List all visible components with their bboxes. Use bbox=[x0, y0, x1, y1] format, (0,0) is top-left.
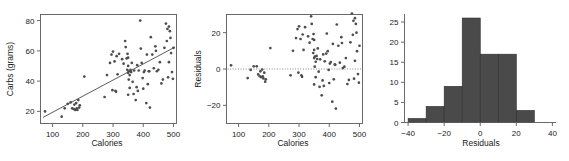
residual-data-point bbox=[332, 43, 335, 46]
scatter-data-point bbox=[139, 47, 142, 50]
residual-data-point bbox=[351, 12, 354, 15]
residual-data-point bbox=[332, 78, 335, 81]
scatter-data-point bbox=[142, 87, 145, 90]
scatter-data-point bbox=[112, 50, 115, 53]
scatter-data-point bbox=[127, 78, 130, 81]
scatter-data-point bbox=[78, 104, 81, 107]
three-panel-figure: 20406080 100200300400500 Calories Carbs … bbox=[0, 0, 569, 161]
residual-data-point bbox=[313, 65, 316, 68]
residual-data-point bbox=[325, 52, 328, 55]
residual-data-point bbox=[312, 52, 315, 55]
scatter-data-point bbox=[136, 90, 139, 93]
scatter-data-point bbox=[127, 93, 130, 96]
scatter-data-point bbox=[118, 53, 121, 56]
residual-data-point bbox=[301, 33, 304, 36]
scatter-data-point bbox=[83, 75, 86, 78]
scatter-data-point bbox=[143, 69, 146, 72]
residual-data-point bbox=[340, 36, 343, 39]
scatter-data-point bbox=[127, 56, 130, 59]
scatter-y-axis-title: Carbs (grams) bbox=[5, 42, 15, 96]
residual-svg: −20020 100200300400500 Calories Residual… bbox=[186, 0, 376, 161]
residual-data-point bbox=[320, 94, 323, 97]
residual-data-point bbox=[355, 23, 358, 26]
residual-data-point bbox=[313, 83, 316, 86]
residual-data-point bbox=[354, 59, 357, 62]
residual-data-point bbox=[322, 85, 325, 88]
histogram-x-axis: −40−2002040 bbox=[401, 123, 557, 138]
histogram-bar bbox=[444, 86, 462, 122]
scatter-data-point bbox=[115, 55, 118, 58]
residual-data-point bbox=[338, 61, 341, 64]
x-tick-label: 500 bbox=[353, 130, 367, 139]
scatter-data-point bbox=[121, 58, 124, 61]
scatter-data-point bbox=[145, 102, 148, 105]
scatter-data-point bbox=[111, 89, 114, 92]
scatter-data-point bbox=[78, 106, 81, 109]
scatter-data-point bbox=[132, 93, 135, 96]
y-tick-label: 80 bbox=[26, 17, 35, 26]
y-tick-label: 25 bbox=[390, 18, 399, 27]
residual-data-point bbox=[317, 70, 320, 73]
residual-data-point bbox=[297, 71, 300, 74]
scatter-plot-area bbox=[41, 15, 177, 124]
scatter-data-point bbox=[169, 37, 172, 40]
scatter-data-point bbox=[146, 83, 149, 86]
histogram-bar bbox=[480, 54, 498, 122]
residual-data-point bbox=[263, 71, 266, 74]
residual-data-point bbox=[292, 49, 295, 52]
residual-data-point bbox=[356, 50, 359, 53]
residual-data-point bbox=[335, 23, 338, 26]
panel-residuals-vs-calories: −20020 100200300400500 Calories Residual… bbox=[186, 0, 376, 161]
x-tick-label: 20 bbox=[512, 129, 521, 138]
scatter-data-point bbox=[128, 87, 131, 90]
residual-data-point bbox=[323, 60, 326, 63]
scatter-data-point bbox=[149, 106, 152, 109]
scatter-data-point bbox=[155, 49, 158, 52]
histogram-bar bbox=[498, 54, 516, 122]
scatter-x-axis-title: Calories bbox=[91, 138, 122, 148]
scatter-data-point bbox=[60, 115, 63, 118]
residual-data-point bbox=[358, 44, 361, 47]
residual-data-point bbox=[351, 34, 354, 37]
residual-y-axis-title: Residuals bbox=[193, 50, 203, 87]
x-tick-label: 500 bbox=[167, 130, 181, 139]
y-tick-label: 60 bbox=[26, 47, 35, 56]
residual-data-point bbox=[331, 100, 334, 103]
scatter-data-point bbox=[131, 81, 134, 84]
scatter-data-point bbox=[76, 109, 79, 112]
x-tick-label: 100 bbox=[232, 130, 246, 139]
residual-data-point bbox=[321, 79, 324, 82]
residual-data-point bbox=[264, 80, 267, 83]
residual-data-point bbox=[314, 76, 317, 79]
x-tick-label: 200 bbox=[262, 130, 276, 139]
y-tick-label: 20 bbox=[390, 38, 399, 47]
residual-data-point bbox=[310, 15, 313, 18]
x-tick-label: 400 bbox=[137, 130, 151, 139]
residual-data-point bbox=[299, 38, 302, 41]
residual-data-point bbox=[329, 61, 332, 64]
x-tick-label: −20 bbox=[437, 129, 451, 138]
x-tick-label: −40 bbox=[401, 129, 415, 138]
residual-data-point bbox=[316, 58, 319, 61]
residual-data-point bbox=[319, 58, 322, 61]
panel-residuals-histogram: 0510152025 −40−2002040 Residuals bbox=[374, 0, 569, 161]
scatter-data-point bbox=[165, 22, 168, 25]
residual-data-point bbox=[316, 47, 319, 50]
residual-data-point bbox=[310, 23, 313, 26]
histogram-bar bbox=[516, 110, 534, 122]
scatter-data-point bbox=[110, 53, 113, 56]
residual-data-point bbox=[334, 63, 337, 66]
residual-data-point bbox=[295, 37, 298, 40]
residual-data-point bbox=[348, 79, 351, 82]
y-tick-label: 20 bbox=[26, 107, 35, 116]
scatter-data-point bbox=[172, 77, 175, 80]
residual-y-axis: −20020 bbox=[207, 29, 227, 111]
histogram-y-axis: 0510152025 bbox=[390, 18, 405, 127]
scatter-data-point bbox=[127, 65, 130, 68]
residual-data-point bbox=[249, 69, 252, 72]
histogram-svg: 0510152025 −40−2002040 Residuals bbox=[374, 0, 569, 161]
x-tick-label: 400 bbox=[323, 130, 337, 139]
scatter-data-point bbox=[134, 99, 137, 102]
scatter-data-point bbox=[116, 73, 119, 76]
scatter-data-point bbox=[160, 82, 163, 85]
